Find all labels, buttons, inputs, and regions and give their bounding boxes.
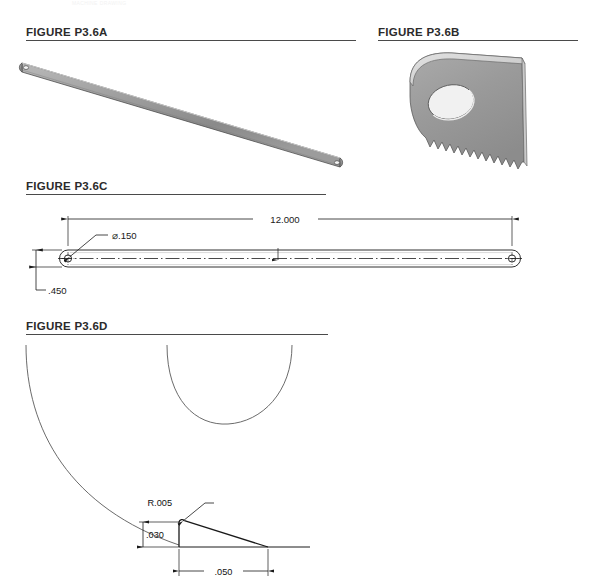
- figure-p3-6c-rule: [26, 194, 326, 195]
- figure-p3-6a-drawing: [0, 50, 380, 175]
- figure-p3-6a: FIGURE P3.6A: [26, 26, 356, 41]
- dimension-tooth-height-label: .030: [146, 530, 164, 540]
- dimension-tooth-radius-label: R.005: [147, 498, 172, 508]
- figure-p3-6a-title: FIGURE P3.6A: [26, 26, 356, 40]
- figure-p3-6c-drawing: 12.000 ⌀.150 .450: [0, 202, 560, 310]
- dimension-tooth-pitch-label: .050: [215, 567, 233, 577]
- dimension-blade-width: .450: [32, 250, 67, 296]
- dimension-hole-diameter-label: ⌀.150: [112, 230, 137, 241]
- detail-arc-inner-circle: [167, 345, 292, 424]
- mounting-hole-right: [334, 161, 339, 165]
- figure-p3-6b: FIGURE P3.6B: [378, 26, 578, 41]
- figure-p3-6d-drawing: R.005 .030 .050: [0, 340, 400, 581]
- figure-p3-6c: FIGURE P3.6C: [26, 180, 326, 195]
- figure-p3-6d-rule: [26, 334, 328, 335]
- dimension-tooth-pitch: .050: [179, 549, 268, 577]
- figure-p3-6b-drawing: [372, 50, 597, 182]
- dimension-overall-length-label: 12.000: [270, 214, 299, 225]
- mounting-hole-left: [23, 66, 28, 70]
- drawing-page: MACHINE DRAWING FIGURE P3.6A: [0, 0, 597, 581]
- figure-p3-6b-title: FIGURE P3.6B: [378, 26, 578, 40]
- detail-bubble-arc-large: [26, 345, 179, 545]
- figure-p3-6d-title: FIGURE P3.6D: [26, 320, 328, 334]
- hacksaw-blade-body: [19, 63, 342, 167]
- dimension-tooth-radius: R.005: [147, 498, 214, 521]
- figure-p3-6c-title: FIGURE P3.6C: [26, 180, 326, 194]
- figure-p3-6a-rule: [26, 40, 356, 41]
- page-header-artifact: MACHINE DRAWING: [72, 0, 126, 6]
- figure-p3-6d: FIGURE P3.6D: [26, 320, 328, 335]
- figure-p3-6b-rule: [378, 40, 578, 41]
- tooth-profile: [179, 520, 268, 547]
- dimension-blade-width-label: .450: [48, 285, 67, 296]
